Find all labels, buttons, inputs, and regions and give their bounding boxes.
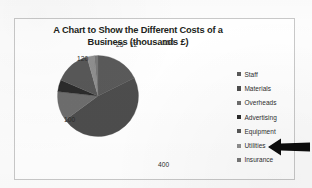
legend-item-overheads[interactable]: Overheads — [237, 96, 297, 110]
legend-swatch-icon — [237, 144, 241, 148]
pie-chart — [57, 55, 139, 137]
pie-slice-label: 12 — [130, 41, 137, 48]
legend-item-staff[interactable]: Staff — [237, 67, 297, 81]
legend-item-equipment[interactable]: Equipment — [237, 124, 297, 138]
legend-swatch-icon — [237, 72, 241, 76]
legend-swatch-icon — [237, 86, 241, 90]
legend-item-label: Materials — [244, 85, 271, 92]
pie-slice-label: 120 — [77, 55, 88, 62]
legend-swatch-icon — [237, 115, 241, 119]
legend-item-label: Utilities — [244, 142, 265, 149]
page-background: A Chart to Show the Different Costs of a… — [0, 0, 312, 188]
legend-item-materials[interactable]: Materials — [237, 81, 297, 95]
legend-item-utilities[interactable]: Utilities — [237, 138, 297, 152]
chart-frame: A Chart to Show the Different Costs of a… — [14, 18, 295, 180]
legend-swatch-icon — [237, 101, 241, 105]
legend-swatch-icon — [237, 158, 241, 162]
pie-slice-label: 100 — [64, 116, 75, 123]
legend-item-label: Insurance — [244, 156, 273, 163]
pie-slice-label: 25 — [116, 41, 123, 48]
legend-swatch-icon — [237, 129, 241, 133]
pie-slice-label: 400 — [158, 161, 169, 168]
legend-item-insurance[interactable]: Insurance — [237, 153, 297, 167]
pie-slice-label: 150 — [163, 39, 174, 46]
chart-legend: StaffMaterialsOverheadsAdvertisingEquipm… — [237, 67, 297, 167]
legend-item-advertising[interactable]: Advertising — [237, 110, 297, 124]
legend-item-label: Overheads — [244, 99, 276, 106]
legend-item-label: Equipment — [244, 128, 275, 135]
legend-item-label: Advertising — [244, 114, 277, 121]
pie-slice-label: 40 — [67, 87, 74, 94]
plot-area: 150400100401202512 StaffMaterialsOverhea… — [15, 19, 296, 181]
legend-item-label: Staff — [244, 71, 257, 78]
